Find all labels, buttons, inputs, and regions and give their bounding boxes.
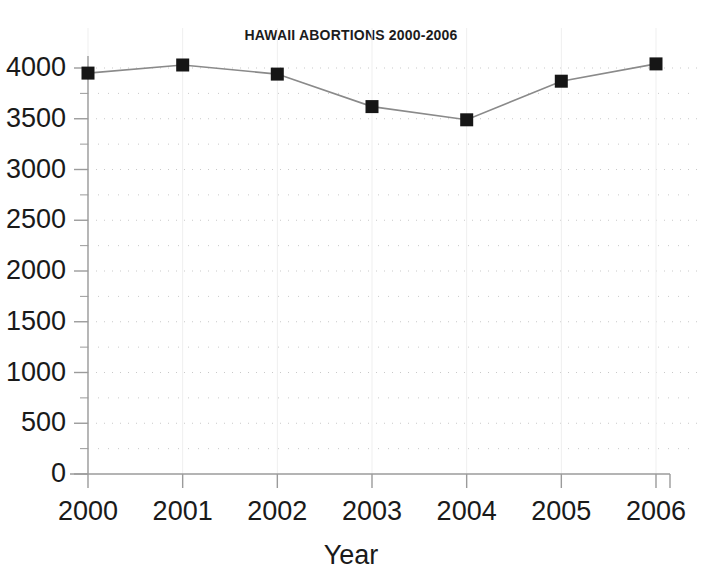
data-point-marker[interactable]: [82, 67, 95, 80]
chart-plot-area: [0, 0, 702, 581]
data-point-marker[interactable]: [366, 100, 379, 113]
gridlines-group: [88, 28, 697, 474]
y-axis-tick-label: 0: [51, 460, 66, 487]
x-axis-tick-label: 2006: [611, 498, 701, 525]
y-axis-tick-label: 4000: [6, 54, 66, 81]
data-point-marker[interactable]: [176, 59, 189, 72]
data-point-marker[interactable]: [555, 75, 568, 88]
chart-container: HAWAII ABORTIONS 2000-2006 0500100015002…: [0, 0, 702, 581]
y-axis-tick-label: 1500: [6, 308, 66, 335]
y-axis-tick-label: 3500: [6, 105, 66, 132]
x-axis-tick-label: 2000: [43, 498, 133, 525]
data-point-marker[interactable]: [460, 113, 473, 126]
data-point-marker[interactable]: [271, 68, 284, 81]
x-axis-title: Year: [0, 540, 702, 571]
y-axis-tick-label: 2000: [6, 257, 66, 284]
data-point-marker[interactable]: [650, 57, 663, 70]
x-axis-tick-label: 2001: [138, 498, 228, 525]
x-axis-tick-label: 2005: [516, 498, 606, 525]
y-axis-tick-label: 1000: [6, 359, 66, 386]
y-axis-tick-label: 2500: [6, 206, 66, 233]
y-axis-tick-label: 3000: [6, 156, 66, 183]
y-axis-tick-label: 500: [21, 409, 66, 436]
x-axis-tick-label: 2004: [422, 498, 512, 525]
x-axis-tick-label: 2002: [232, 498, 322, 525]
x-axis-tick-label: 2003: [327, 498, 417, 525]
